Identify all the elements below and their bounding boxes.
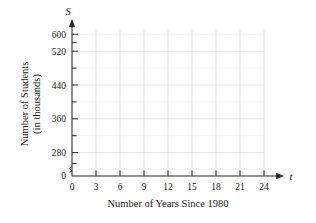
axis-layer xyxy=(69,19,284,179)
y-axis-title-line2: (in thousands) xyxy=(31,74,43,134)
y-axis-title-group: Number of Students (in thousands) xyxy=(19,62,43,147)
x-tick-label-9: 9 xyxy=(142,182,147,192)
grid-layer xyxy=(72,30,264,176)
x-tick-label-0: 0 xyxy=(70,182,75,192)
y-tick-label-360: 360 xyxy=(52,114,67,124)
x-tick-label-21: 21 xyxy=(235,182,245,192)
y-tick-labels: 600 520 440 360 280 0 xyxy=(52,30,67,181)
x-tick-labels: 0 3 6 9 12 15 18 21 24 xyxy=(70,182,269,192)
x-tick-label-6: 6 xyxy=(118,182,123,192)
y-tick-label-280: 280 xyxy=(52,148,67,158)
x-tick-label-24: 24 xyxy=(259,182,269,192)
y-axis-variable-label: S xyxy=(65,6,71,17)
x-tick-label-18: 18 xyxy=(211,182,221,192)
x-axis-variable-label: t xyxy=(290,171,294,182)
y-axis-arrow-icon xyxy=(69,19,75,27)
y-tick-label-0: 0 xyxy=(61,171,66,181)
y-axis-title-line1: Number of Students xyxy=(19,62,30,147)
blank-coordinate-grid: 600 520 440 360 280 0 0 3 6 9 12 15 18 2… xyxy=(0,0,316,223)
chart-figure: 600 520 440 360 280 0 0 3 6 9 12 15 18 2… xyxy=(0,0,316,223)
x-tick-marks xyxy=(96,170,264,176)
y-tick-marks xyxy=(72,34,78,163)
x-tick-label-12: 12 xyxy=(163,182,173,192)
y-tick-label-440: 440 xyxy=(52,81,67,91)
x-axis-arrow-icon xyxy=(276,173,284,179)
y-tick-label-600: 600 xyxy=(52,30,67,40)
x-axis-title: Number of Years Since 1980 xyxy=(107,198,228,209)
x-tick-label-15: 15 xyxy=(187,182,197,192)
y-tick-label-520: 520 xyxy=(52,47,67,57)
x-tick-label-3: 3 xyxy=(94,182,99,192)
